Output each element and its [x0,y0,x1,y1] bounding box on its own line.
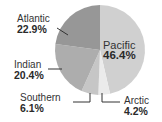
label-atlantic: Atlantic 22.9% [17,14,50,34]
label-pacific: Pacific 46.4% [103,40,136,60]
label-indian: Indian 20.4% [14,60,44,80]
label-arctic: Arctic 4.2% [124,96,149,116]
leader-southern [73,93,90,102]
pie-slice-atlantic [55,5,100,50]
label-southern: Southern 6.1% [20,93,61,113]
